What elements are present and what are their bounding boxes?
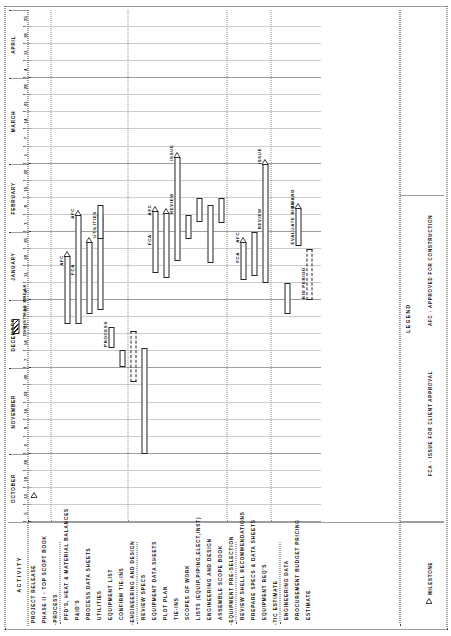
activity-label: -TIC ESTIMATE xyxy=(273,580,278,626)
activity-row[interactable]: PHASE II - TOP SCOPT BOOK xyxy=(39,523,50,626)
activity-row[interactable]: PROCESS DATA SHEETS xyxy=(83,523,94,626)
gantt-bar[interactable] xyxy=(207,205,213,263)
week-tick xyxy=(22,419,28,420)
bar-end-label: AFC xyxy=(69,208,74,219)
activity-row[interactable]: CONFIRM TIE-INS xyxy=(116,523,127,626)
week-tick-label: 8 xyxy=(22,205,27,207)
rotated-sheet: ACTIVITY PROJECT RELEASEPHASE II - TOP S… xyxy=(0,0,451,636)
bar-end-label: AFC xyxy=(234,232,239,243)
activity-row[interactable]: ENGINEERING AND DESIGN xyxy=(204,523,215,626)
activity-row[interactable]: PREPARE SPECS & DATA SHEETS xyxy=(248,523,259,626)
week-tick-label: 14 xyxy=(22,340,27,345)
bar-label: UTILITIES xyxy=(91,211,96,238)
month-name: FEBRUARY xyxy=(10,165,15,232)
week-tick xyxy=(22,197,28,198)
week-tick-label: 26 xyxy=(22,460,27,465)
week-tick-label: 14 xyxy=(22,119,27,124)
gantt-bar[interactable] xyxy=(174,157,180,261)
week-tick xyxy=(22,436,28,437)
horizontal-gridline xyxy=(226,10,227,522)
bar-label: FCA xyxy=(146,234,151,245)
activity-column: ACTIVITY PROJECT RELEASEPHASE II - TOP S… xyxy=(8,522,443,626)
gantt-bar[interactable] xyxy=(306,249,312,300)
gantt-bar[interactable] xyxy=(262,164,268,283)
month-name: DECEMBER xyxy=(10,301,15,368)
week-tick xyxy=(22,146,28,147)
gantt-bar[interactable] xyxy=(130,331,136,382)
activity-group-rule xyxy=(279,542,280,624)
activity-row[interactable]: SCOPES OF WORK xyxy=(182,523,193,626)
week-tick-label: 5 xyxy=(22,512,27,514)
activity-row[interactable]: PROCUREMENT BUDGET PRICING xyxy=(292,523,303,626)
gantt-bar[interactable] xyxy=(240,242,246,280)
week-tick-label: 18 xyxy=(22,255,27,260)
vertical-gridline xyxy=(28,436,320,437)
activity-label: UTILITIES xyxy=(97,590,102,626)
activity-group-rule xyxy=(136,542,137,624)
vertical-gridline xyxy=(28,26,320,27)
activity-row[interactable]: REVIEW SHELL RECOMMENDATIONS xyxy=(237,523,248,626)
activity-row[interactable]: EQUIPMENT LIST xyxy=(105,523,116,626)
gantt-bar[interactable] xyxy=(295,208,301,246)
gantt-bar[interactable] xyxy=(196,198,202,222)
gantt-bar[interactable] xyxy=(108,327,114,347)
vertical-gridline xyxy=(28,470,320,471)
week-tick-label: 9 xyxy=(22,427,27,429)
week-tick xyxy=(22,163,28,164)
gantt-bar[interactable] xyxy=(75,215,81,324)
activity-label: EQUIPMENT LIST xyxy=(108,569,113,626)
horizontal-gridline xyxy=(50,10,51,522)
legend-item: FCA - ISSUE FOR CLIENT APPROVAL xyxy=(427,371,432,476)
gantt-bar[interactable] xyxy=(218,198,224,224)
week-tick xyxy=(22,77,28,78)
gantt-bar[interactable] xyxy=(86,242,92,314)
activity-label: ASSEMBLE SCOPE BOOK xyxy=(218,545,223,626)
gantt-bar[interactable] xyxy=(97,205,103,239)
timeline-month: FEBRUARY181522 xyxy=(8,164,28,232)
gantt-bar[interactable] xyxy=(119,350,125,367)
week-tick-label: 16 xyxy=(22,409,27,414)
activity-row[interactable]: EQUIPMENT REQ'S xyxy=(259,523,270,626)
activity-row[interactable]: ASSEMBLE SCOPE BOOK xyxy=(215,523,226,626)
month-name: NOVEMBER xyxy=(10,369,15,453)
activity-group-rule xyxy=(59,542,60,624)
activity-row[interactable]: ENGINEERING DATA xyxy=(281,523,292,626)
activity-row[interactable]: P&ID'S xyxy=(72,523,83,626)
week-tick-label: 25 xyxy=(22,238,27,243)
activity-row[interactable]: TIE-INS xyxy=(171,523,182,626)
gantt-bar[interactable] xyxy=(284,283,290,314)
week-tick xyxy=(22,521,28,522)
gantt-bar[interactable] xyxy=(152,211,158,272)
week-tick-label: 22 xyxy=(22,170,27,175)
gantt-bar[interactable] xyxy=(163,213,169,278)
gantt-bar[interactable] xyxy=(251,232,257,276)
week-tick xyxy=(22,128,28,129)
activity-row[interactable]: EQUIPMENT DATA SHEETS xyxy=(149,523,160,626)
vertical-gridline xyxy=(28,402,320,403)
week-tick-label: 25 xyxy=(22,16,27,21)
week-tick-label: 7 xyxy=(22,137,27,139)
activity-label: EQUIPMENT REQ'S xyxy=(262,564,267,626)
week-tick-label: 12 xyxy=(22,494,27,499)
vertical-gridline xyxy=(28,77,320,78)
vertical-gridline xyxy=(28,94,320,95)
activity-row[interactable]: PROJECT RELEASE xyxy=(28,523,39,626)
activity-label: PLOT PLAN xyxy=(163,586,168,626)
activity-label: SCOPES OF WORK xyxy=(185,565,190,626)
week-tick-label: 11 xyxy=(22,50,27,55)
gantt-bar[interactable] xyxy=(141,348,147,454)
vertical-gridline xyxy=(28,419,320,420)
activity-label: TIE-INS xyxy=(174,597,179,626)
activity-row[interactable]: LISTS (EQUIP,PIPING,ELECT,INST) xyxy=(193,523,204,626)
week-tick-label: 1 xyxy=(22,222,27,224)
vertical-gridline xyxy=(28,453,320,454)
activity-row[interactable]: UTILITIES xyxy=(94,523,105,626)
activity-row[interactable]: REVIEW SPECS xyxy=(138,523,149,626)
activity-row[interactable]: PFD'S, HEAT & MATERIAL BALANCES xyxy=(61,523,72,626)
vertical-gridline xyxy=(28,282,320,283)
activity-label: PFD'S, HEAT & MATERIAL BALANCES xyxy=(64,508,69,626)
activity-row[interactable]: PLOT PLAN xyxy=(160,523,171,626)
gantt-bar[interactable] xyxy=(185,215,191,239)
activity-row[interactable]: ESTIMATE xyxy=(303,523,314,626)
week-tick xyxy=(22,504,28,505)
